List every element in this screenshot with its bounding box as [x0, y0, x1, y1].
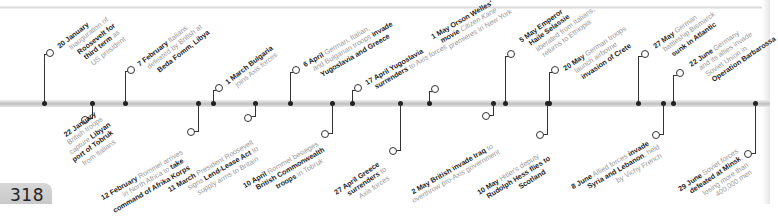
event-marker-circle-icon	[292, 66, 300, 74]
event-marker-circle-icon	[321, 130, 329, 138]
event-marker-circle-icon	[431, 85, 439, 93]
event-marker-circle-icon	[536, 131, 544, 139]
axis-tick-dot	[503, 101, 508, 106]
event-marker-circle-icon	[744, 150, 752, 158]
event-marker-circle-icon	[215, 84, 223, 92]
event-label: 22 January British troops capture Libyan…	[48, 107, 122, 177]
connector-line	[663, 104, 664, 135]
connector-line	[673, 76, 674, 103]
connector-line	[549, 73, 550, 103]
event-marker-circle-icon	[482, 112, 490, 120]
axis-tick-dot	[350, 101, 355, 106]
event-marker-circle-icon	[641, 50, 649, 58]
connector-line	[44, 55, 45, 103]
connector-line	[755, 104, 756, 154]
event-label: 1 March Bulgaria joins Axis forces	[224, 44, 280, 93]
event-marker-circle-icon	[46, 49, 54, 57]
connector-line	[125, 72, 126, 103]
page-number: 318	[10, 185, 44, 205]
connector-line	[400, 104, 401, 151]
connector-line	[332, 104, 333, 134]
axis-tick-dot	[636, 101, 641, 106]
timeline-axis	[0, 100, 770, 107]
event-label: 7 February Italians defeated by British …	[136, 15, 211, 82]
event-label: 20 January Inauguration of Roosevelt for…	[56, 8, 128, 77]
connector-line	[638, 57, 639, 103]
event-marker-circle-icon	[127, 66, 135, 74]
connector-line	[547, 104, 548, 135]
axis-tick-dot	[123, 101, 128, 106]
event-marker-circle-icon	[551, 66, 559, 74]
axis-tick-dot	[211, 101, 216, 106]
event-marker-circle-icon	[676, 69, 684, 77]
event-label: 27 April Greece surrenders to Axis force…	[333, 159, 393, 211]
event-label: 29 June Soviet forces defeated at Minsk,…	[672, 147, 755, 218]
event-marker-circle-icon	[354, 84, 362, 92]
event-marker-circle-icon	[187, 128, 195, 136]
axis-tick-dot	[671, 101, 676, 106]
connector-line	[290, 73, 291, 103]
axis-tick-dot	[288, 101, 293, 106]
axis-tick-dot	[427, 101, 432, 106]
event-marker-circle-icon	[507, 50, 515, 58]
event-marker-circle-icon	[244, 114, 252, 122]
axis-tick-dot	[42, 101, 47, 106]
event-marker-circle-icon	[389, 147, 397, 155]
top-rule	[0, 6, 770, 9]
connector-line	[505, 57, 506, 103]
connector-line	[198, 104, 199, 132]
event-label: 8 June Allied forces invade Syria and Le…	[570, 136, 666, 206]
